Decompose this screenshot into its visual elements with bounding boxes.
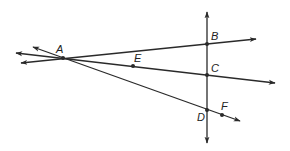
label-f: F xyxy=(221,100,229,112)
label-a: A xyxy=(55,43,63,55)
line-AC xyxy=(16,53,275,83)
point-d xyxy=(205,108,209,112)
label-b: B xyxy=(211,30,218,42)
diagram-canvas: ABCDEF xyxy=(0,0,290,151)
points-layer xyxy=(61,42,224,117)
point-b xyxy=(205,42,209,46)
geometry-diagram: ABCDEF xyxy=(0,0,290,151)
label-d: D xyxy=(197,111,205,123)
point-e xyxy=(131,64,135,68)
point-f xyxy=(220,113,224,117)
label-e: E xyxy=(134,52,142,64)
label-c: C xyxy=(211,62,219,74)
point-a xyxy=(61,56,65,60)
lines-layer xyxy=(16,12,275,143)
point-c xyxy=(205,73,209,77)
